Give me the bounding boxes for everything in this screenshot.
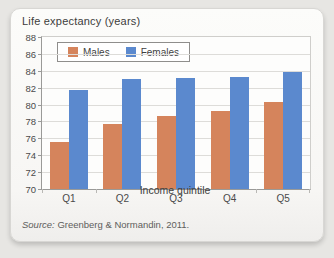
y-tick-mark-88 [38,37,42,38]
y-tick-label-88: 88 [6,32,36,43]
bar-males-q4 [211,111,230,189]
chart-card: Life expectancy (years) MalesFemales 707… [10,8,324,242]
x-tick-mark-5 [309,189,310,193]
y-tick-mark-86 [38,54,42,55]
y-tick-mark-74 [38,155,42,156]
y-tick-label-78: 78 [6,116,36,127]
bar-females-q5 [283,72,302,189]
y-tick-mark-80 [38,105,42,106]
y-tick-mark-76 [38,138,42,139]
y-tick-label-70: 70 [6,184,36,195]
y-tick-label-84: 84 [6,66,36,77]
y-tick-mark-82 [38,88,42,89]
y-tick-label-72: 72 [6,167,36,178]
legend: MalesFemales [57,42,190,62]
legend-item-males: Males [68,47,110,58]
bar-males-q2 [103,124,122,189]
x-axis-title: Income quintile [41,184,309,196]
bar-females-q2 [122,79,141,189]
bar-males-q5 [264,102,283,189]
bar-males-q3 [157,116,176,189]
legend-label-females: Females [141,47,179,58]
source-line: Source: Greenberg & Normandin, 2011. [22,219,189,230]
gridline-y-84 [42,71,310,72]
legend-swatch-females [126,47,136,57]
y-tick-mark-78 [38,121,42,122]
chart-title: Life expectancy (years) [22,15,140,27]
bar-males-q1 [50,142,69,189]
y-tick-label-86: 86 [6,49,36,60]
y-tick-label-76: 76 [6,133,36,144]
page: { "card": { "title": "Life expectancy (y… [0,0,334,258]
bar-females-q1 [69,90,88,189]
plot-area: MalesFemales 70727476788082848688Q1Q2Q3Q… [41,36,311,190]
legend-item-females: Females [126,47,179,58]
y-tick-mark-72 [38,172,42,173]
y-tick-mark-84 [38,71,42,72]
source-label: Source: [22,219,55,230]
gridline-y-86 [42,54,310,55]
bar-females-q3 [176,78,195,189]
y-tick-label-82: 82 [6,83,36,94]
bar-females-q4 [230,77,249,189]
source-text: Greenberg & Normandin, 2011. [55,219,189,230]
y-tick-label-74: 74 [6,150,36,161]
y-tick-label-80: 80 [6,100,36,111]
legend-swatch-males [68,47,78,57]
legend-label-males: Males [83,47,110,58]
